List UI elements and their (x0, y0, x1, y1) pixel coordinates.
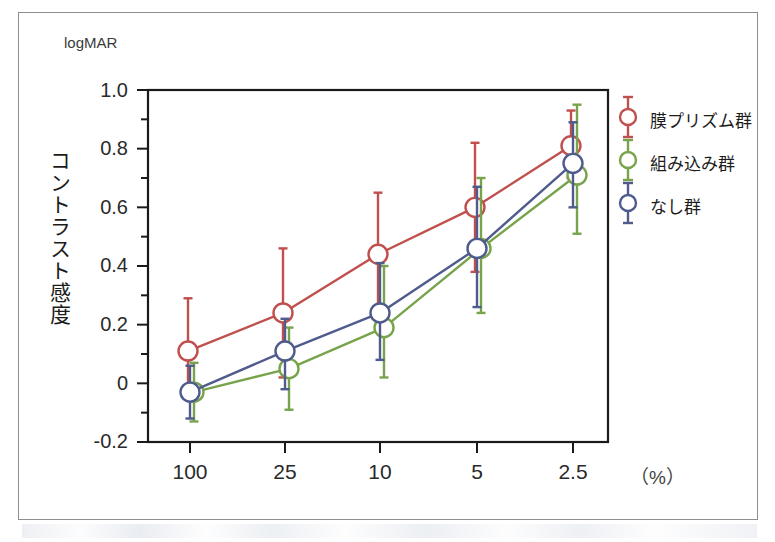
data-point-2-0 (181, 383, 200, 402)
series-line-2 (190, 163, 573, 392)
contrast-sensitivity-chart: logMAR コントラスト感度 1.0 0.8 0.6 0.4 0.2 0 -0… (0, 0, 775, 542)
data-point-2-1 (276, 342, 295, 361)
data-point-0-2 (369, 245, 388, 264)
figure-root: logMAR コントラスト感度 1.0 0.8 0.6 0.4 0.2 0 -0… (0, 0, 775, 542)
data-point-2-3 (468, 239, 487, 258)
data-point-1-1 (280, 359, 299, 378)
legend-marker-2 (620, 195, 636, 211)
legend-marker-0 (620, 109, 636, 125)
plot-canvas (0, 0, 775, 542)
data-point-2-4 (564, 154, 583, 173)
series-2 (181, 122, 583, 418)
data-point-0-0 (179, 342, 198, 361)
series-1 (185, 105, 587, 422)
axes-layer (137, 90, 608, 453)
legend-marker-1 (620, 152, 636, 168)
series-line-1 (194, 175, 577, 392)
series-layer (179, 105, 587, 422)
data-point-2-2 (371, 303, 390, 322)
legend-marker-layer (620, 97, 636, 223)
